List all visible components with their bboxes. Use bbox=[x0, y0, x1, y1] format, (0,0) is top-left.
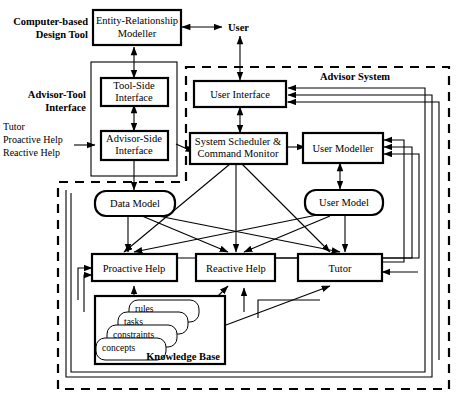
node-kb-concepts-label: concepts bbox=[102, 343, 136, 353]
region-design-tool-label-line1: Computer-based bbox=[13, 16, 88, 27]
node-tool-side-label-line2: Interface bbox=[115, 92, 153, 103]
node-user-label: User bbox=[228, 22, 249, 33]
architecture-diagram: Advisor System Advisor-Tool Interface Co… bbox=[0, 0, 459, 420]
node-advisor-side-label-line2: Interface bbox=[115, 145, 153, 156]
annotation-line1: Tutor bbox=[3, 121, 26, 132]
annotation-line2: Proactive Help bbox=[3, 134, 63, 145]
node-proactive-help[interactable]: Proactive Help bbox=[92, 254, 177, 281]
node-data-model-label: Data Model bbox=[110, 198, 160, 209]
node-proactive-help-label: Proactive Help bbox=[103, 263, 166, 274]
diagram-canvas: Advisor System Advisor-Tool Interface Co… bbox=[0, 0, 459, 420]
region-advisor-system-label: Advisor System bbox=[320, 71, 390, 82]
node-user-model[interactable]: User Model bbox=[305, 190, 383, 215]
node-user-interface[interactable]: User Interface bbox=[194, 81, 286, 107]
node-tutor[interactable]: Tutor bbox=[298, 254, 382, 281]
node-system-scheduler-label-line2: Command Monitor bbox=[198, 148, 279, 159]
node-advisor-side-label-line1: Advisor-Side bbox=[106, 133, 162, 144]
region-knowledge-base-label: Knowledge Base bbox=[146, 351, 220, 362]
node-data-model[interactable]: Data Model bbox=[95, 191, 175, 216]
node-user-modeller[interactable]: User Modeller bbox=[303, 133, 383, 163]
annotation-incoming-help: Tutor Proactive Help Reactive Help bbox=[3, 121, 63, 158]
node-user-modeller-label: User Modeller bbox=[313, 143, 374, 154]
node-user: User bbox=[228, 22, 249, 33]
node-tool-side-label-line1: Tool-Side bbox=[113, 80, 155, 91]
node-user-interface-label: User Interface bbox=[210, 89, 270, 100]
annotation-line3: Reactive Help bbox=[3, 147, 60, 158]
node-advisor-side-interface[interactable]: Advisor-Side Interface bbox=[101, 131, 168, 160]
node-er-modeller-label-line2: Modeller bbox=[118, 28, 157, 39]
region-advisor-tool-interface-label-line2: Interface bbox=[45, 102, 86, 113]
region-design-tool-label-line2: Design Tool bbox=[36, 29, 88, 40]
node-system-scheduler-label-line1: System Scheduler & bbox=[195, 136, 281, 147]
node-user-model-label: User Model bbox=[319, 197, 369, 208]
node-er-modeller-label-line1: Entity-Relationship bbox=[96, 15, 178, 26]
node-system-scheduler-command-monitor[interactable]: System Scheduler & Command Monitor bbox=[190, 133, 287, 164]
region-knowledge-base: rules tasks constraints concepts Knowled… bbox=[95, 296, 225, 364]
region-computer-based-design-tool: Computer-based Design Tool bbox=[13, 16, 88, 40]
node-entity-relationship-modeller[interactable]: Entity-Relationship Modeller bbox=[93, 10, 181, 45]
node-reactive-help[interactable]: Reactive Help bbox=[196, 254, 275, 281]
region-advisor-tool-interface-label-line1: Advisor-Tool bbox=[28, 89, 86, 100]
node-tool-side-interface[interactable]: Tool-Side Interface bbox=[101, 78, 168, 106]
node-reactive-help-label: Reactive Help bbox=[206, 263, 266, 274]
node-tutor-label: Tutor bbox=[329, 263, 352, 274]
